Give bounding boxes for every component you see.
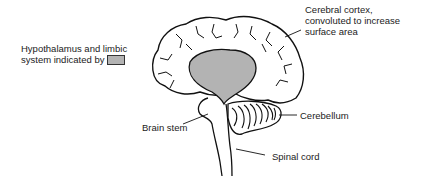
limbic-label-line1: Hypothalamus and limbic xyxy=(21,43,127,54)
cerebellum-label: Cerebellum xyxy=(300,110,349,121)
cortex-label-line2: convoluted to increase xyxy=(305,15,400,26)
cerebellum-outline xyxy=(228,101,281,134)
brain-stem-label: Brain stem xyxy=(142,122,187,133)
brain-stem-outline xyxy=(198,98,222,176)
limbic-label-line2-row: system indicated by xyxy=(21,54,127,65)
limbic-label-line2: system indicated by xyxy=(21,54,104,65)
limbic-legend-swatch xyxy=(107,55,125,65)
spinal-cord-label: Spinal cord xyxy=(272,151,320,162)
limbic-label: Hypothalamus and limbic system indicated… xyxy=(21,43,127,65)
cerebral-cortex-label: Cerebral cortex, convoluted to increase … xyxy=(305,4,400,37)
cortex-label-line1: Cerebral cortex, xyxy=(305,4,400,15)
cortex-label-line3: surface area xyxy=(305,26,400,37)
